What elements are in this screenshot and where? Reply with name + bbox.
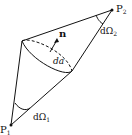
area-ellipse-back bbox=[22, 40, 72, 71]
angle-arc-1 bbox=[15, 103, 30, 110]
cone-edge-p2-right bbox=[72, 10, 112, 71]
normal-label: n bbox=[59, 28, 67, 39]
point-p1 bbox=[10, 124, 13, 127]
p1-label: P1 bbox=[0, 124, 11, 135]
cone-edge-p1-left bbox=[11, 41, 22, 125]
cone-edge-p2-left bbox=[22, 10, 112, 41]
p2-label: P2 bbox=[116, 3, 127, 15]
point-p2 bbox=[111, 9, 114, 12]
solid-angle-diagram: P1 P2 n da dΩ1 dΩ2 bbox=[0, 0, 132, 135]
angle-arc-2 bbox=[96, 15, 103, 24]
area-label: da bbox=[53, 56, 64, 66]
solid-angle-2-label: dΩ2 bbox=[100, 26, 117, 37]
solid-angle-1-label: dΩ1 bbox=[33, 112, 50, 123]
